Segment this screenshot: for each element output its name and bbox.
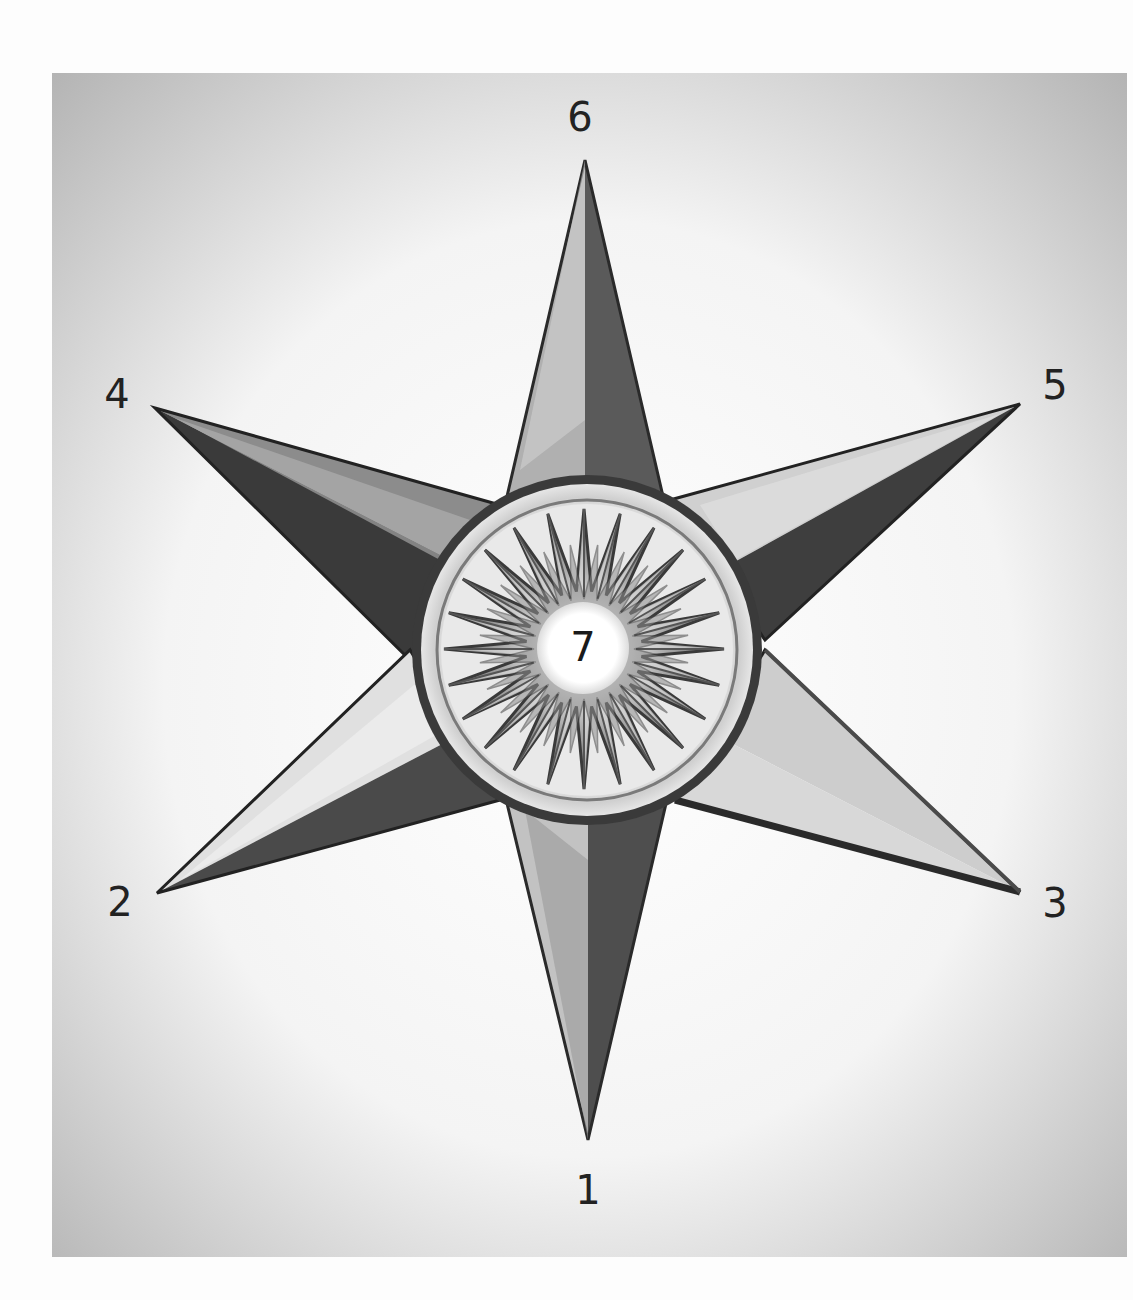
compass-star-diagram: 6 4 5 2 3 1 7: [0, 0, 1133, 1300]
center-label-7: 7: [570, 624, 595, 670]
point-label-6: 6: [567, 94, 592, 140]
point-label-3: 3: [1042, 880, 1067, 926]
point-label-2: 2: [107, 879, 132, 925]
point-label-5: 5: [1042, 362, 1067, 408]
point-label-1: 1: [575, 1167, 600, 1213]
point-label-4: 4: [104, 371, 129, 417]
